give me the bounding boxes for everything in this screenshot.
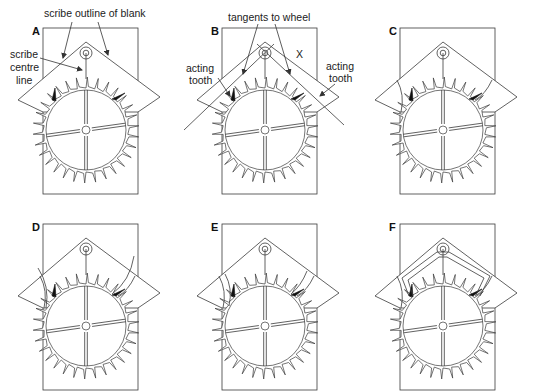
label-acting-left-2: tooth bbox=[189, 74, 213, 86]
label-acting-right-1: acting bbox=[326, 60, 354, 72]
label-x-mark: X bbox=[296, 48, 303, 60]
panel-letter-f: F bbox=[389, 221, 396, 233]
panel-letter-e: E bbox=[211, 221, 218, 233]
escape-wheel-hub bbox=[439, 322, 447, 330]
label-scribe-centre-1: scribe bbox=[10, 48, 38, 60]
panel-letter-a: A bbox=[32, 25, 40, 37]
escapement-diagram: ABCDEF scribe outline of blank scribe ce… bbox=[0, 0, 535, 392]
escape-wheel-hub bbox=[261, 322, 269, 330]
label-scribe-centre-3: line bbox=[16, 74, 33, 86]
panel-letter-d: D bbox=[32, 221, 40, 233]
label-scribe-centre-2: centre bbox=[10, 61, 39, 73]
panel-letter-c: C bbox=[389, 25, 397, 37]
panel-d: D bbox=[18, 221, 160, 390]
panels-group: ABCDEF bbox=[18, 22, 517, 390]
label-acting-right-2: tooth bbox=[329, 72, 353, 84]
label-acting-left-1: acting bbox=[186, 62, 214, 74]
label-scribe-outline: scribe outline of blank bbox=[44, 7, 146, 19]
escape-wheel-hub bbox=[439, 126, 447, 134]
panel-e: E bbox=[197, 221, 339, 390]
escape-wheel-hub bbox=[82, 322, 90, 330]
panel-c: C bbox=[375, 25, 517, 194]
panel-letter-b: B bbox=[211, 25, 219, 37]
panel-a: A bbox=[18, 25, 160, 194]
panel-f: F bbox=[375, 221, 517, 390]
escape-wheel-hub bbox=[82, 126, 90, 134]
escape-wheel-hub bbox=[261, 126, 269, 134]
panel-b: B bbox=[184, 25, 344, 194]
label-tangents: tangents to wheel bbox=[228, 11, 310, 23]
